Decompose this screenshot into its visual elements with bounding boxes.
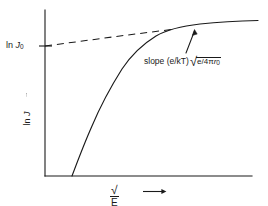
- y-axis-ln: ln: [22, 119, 32, 126]
- asymptote-dashed-line: [45, 29, 175, 46]
- y-axis-label: ln J: [23, 102, 32, 136]
- radical-body: E: [110, 196, 119, 206]
- slope-radical-prefix: e/4: [197, 57, 208, 66]
- slope-radical-body: e/4πr0: [196, 57, 221, 67]
- y-intercept-subscript: 0: [20, 43, 24, 50]
- x-axis-label: √E: [110, 183, 119, 206]
- y-axis-label-group: ln J: [18, 84, 36, 148]
- slope-annotation-prefix: slope (e/kT): [144, 56, 189, 66]
- annotation-pointer-arrow: [186, 30, 197, 54]
- right-arrow-icon: [143, 188, 167, 195]
- slope-sqrt-radical: √e/4πr0: [189, 55, 221, 68]
- radical-sign: √: [111, 184, 118, 196]
- schottky-emission-figure: ln J0 ln J √E slope (e/kT)√e/4πr0: [0, 0, 268, 206]
- y-axis-symbol: J: [22, 111, 32, 116]
- y-intercept-label: ln J0: [6, 41, 24, 51]
- sqrt-radical: √E: [110, 183, 119, 206]
- emission-curve: [72, 21, 258, 177]
- y-intercept-ln: ln: [6, 40, 13, 50]
- slope-annotation: slope (e/kT)√e/4πr0: [144, 55, 221, 68]
- slope-radical-subscript: 0: [216, 60, 220, 67]
- plot-canvas: [0, 0, 268, 206]
